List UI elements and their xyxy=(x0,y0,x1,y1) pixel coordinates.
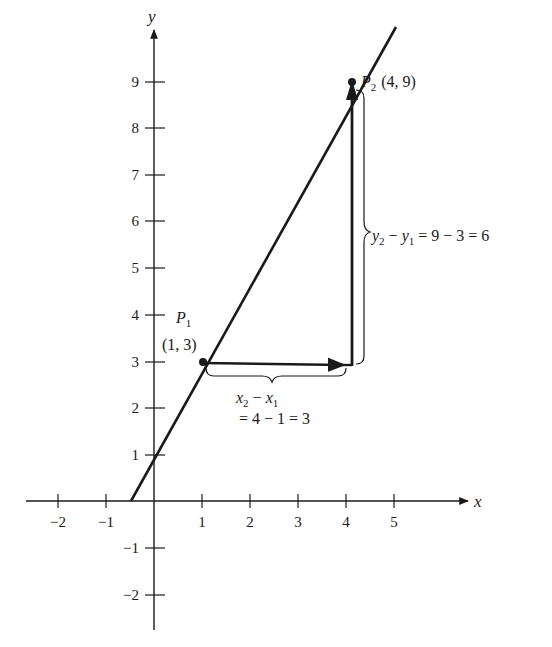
p1-name-label: P1 xyxy=(175,309,191,329)
y-tick-label: 4 xyxy=(132,307,140,323)
x-ticks: −2−112345 xyxy=(50,494,398,530)
dx-annotation-line1: x2 − x1 xyxy=(235,389,278,409)
distance-diagram: x y −2−112345 987654321−1−2 P2(4, 9) P1 … xyxy=(0,0,552,647)
y-ticks: 987654321−1−2 xyxy=(123,74,165,603)
y-tick-label: 9 xyxy=(132,74,140,90)
x-axis-label: x xyxy=(473,492,482,511)
dy-annotation: y2 − y1 = 9 − 3 = 6 xyxy=(370,227,489,247)
point-p2 xyxy=(348,78,356,86)
dx-arrow xyxy=(204,363,344,365)
x-tick-label: −1 xyxy=(98,514,114,530)
y-tick-label: 3 xyxy=(132,354,140,370)
dx-brace xyxy=(206,368,346,382)
x-tick-label: 3 xyxy=(294,514,302,530)
y-tick-label: −2 xyxy=(123,587,139,603)
x-tick-label: −2 xyxy=(50,514,66,530)
p1-coords-label: (1, 3) xyxy=(162,336,197,354)
y-tick-label: 2 xyxy=(132,400,140,416)
y-tick-label: 1 xyxy=(132,447,140,463)
x-tick-label: 1 xyxy=(198,514,206,530)
y-tick-label: 8 xyxy=(132,120,140,136)
dx-annotation-line2: = 4 − 1 = 3 xyxy=(239,410,310,427)
point-p1 xyxy=(199,358,207,366)
x-tick-label: 2 xyxy=(246,514,254,530)
p2-label: P2(4, 9) xyxy=(360,73,416,93)
y-axis-label: y xyxy=(146,7,156,26)
y-tick-label: 7 xyxy=(132,167,140,183)
dy-brace xyxy=(356,90,370,364)
y-tick-label: 5 xyxy=(132,260,140,276)
y-tick-label: 6 xyxy=(132,213,140,229)
x-tick-label: 5 xyxy=(390,514,398,530)
y-tick-label: −1 xyxy=(123,540,139,556)
plot-area: x y −2−112345 987654321−1−2 P2(4, 9) P1 … xyxy=(0,0,552,647)
x-tick-label: 4 xyxy=(342,514,350,530)
